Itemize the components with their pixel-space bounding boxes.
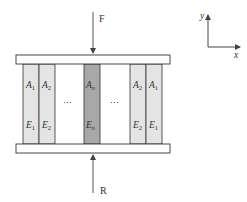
column-a1-right [146, 64, 162, 144]
column-a2-left [39, 64, 55, 144]
column-an-center [84, 64, 100, 144]
reaction-r-label: R [100, 185, 107, 196]
column-a1-left [23, 64, 39, 144]
x-axis-label: x [233, 50, 239, 60]
y-axis-label: y [199, 11, 205, 21]
force-f-label: F [99, 13, 105, 24]
parallel-bars-diagram: F A1 A2 An A2 A1 E1 E2 En E2 E1 ⋯ ⋯ R y … [0, 0, 247, 202]
column-a2-right [130, 64, 146, 144]
bottom-plate [16, 144, 170, 153]
ellipsis-left: ⋯ [63, 98, 72, 108]
coordinate-axes [208, 15, 240, 47]
top-plate [16, 55, 170, 64]
ellipsis-right: ⋯ [110, 98, 119, 108]
